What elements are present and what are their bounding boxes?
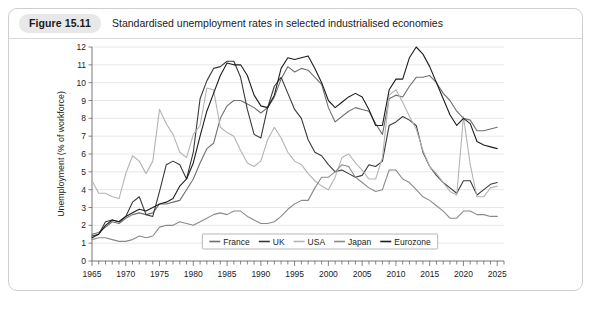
svg-text:0: 0 xyxy=(81,256,86,266)
unemployment-line-chart: 0123456789101112 19651970197519801985199… xyxy=(9,39,584,291)
svg-text:11: 11 xyxy=(77,60,86,70)
svg-text:7: 7 xyxy=(81,131,86,141)
y-axis-title: Unemployment (% of workforce) xyxy=(56,91,66,217)
figure-header: Figure 15.11 Standardised unemployment r… xyxy=(9,9,582,39)
svg-text:10: 10 xyxy=(77,78,87,88)
svg-text:5: 5 xyxy=(81,167,86,177)
chart-plot-area: 0123456789101112 19651970197519801985199… xyxy=(9,39,584,291)
svg-text:9: 9 xyxy=(81,96,86,106)
svg-text:2015: 2015 xyxy=(420,269,439,279)
legend-label-uk: UK xyxy=(273,237,285,247)
figure-card: Figure 15.11 Standardised unemployment r… xyxy=(8,8,583,291)
series-line-eurozone xyxy=(92,47,497,238)
svg-text:1980: 1980 xyxy=(184,269,203,279)
x-axis-tick-labels: 1965197019751980198519901995200020052010… xyxy=(83,269,507,279)
svg-text:12: 12 xyxy=(77,42,87,52)
svg-text:1995: 1995 xyxy=(285,269,304,279)
series-line-france xyxy=(92,67,497,235)
svg-text:2010: 2010 xyxy=(386,269,405,279)
svg-text:4: 4 xyxy=(81,185,86,195)
series-line-uk xyxy=(92,61,497,236)
figure-number-badge: Figure 15.11 xyxy=(19,14,101,33)
svg-text:6: 6 xyxy=(81,149,86,159)
legend-label-japan: Japan xyxy=(348,237,371,247)
svg-text:2025: 2025 xyxy=(488,269,507,279)
svg-text:1: 1 xyxy=(81,238,86,248)
legend-label-eurozone: Eurozone xyxy=(394,237,431,247)
x-axis-ticks xyxy=(92,261,504,266)
figure-title: Standardised unemployment rates in selec… xyxy=(112,17,443,29)
svg-text:2000: 2000 xyxy=(319,269,338,279)
svg-text:2: 2 xyxy=(81,220,86,230)
svg-text:2020: 2020 xyxy=(454,269,473,279)
legend-label-usa: USA xyxy=(308,237,326,247)
y-axis-ticks xyxy=(89,47,93,261)
svg-text:1965: 1965 xyxy=(83,269,102,279)
svg-text:8: 8 xyxy=(81,113,86,123)
data-series-layer xyxy=(92,47,497,241)
svg-text:1975: 1975 xyxy=(150,269,169,279)
legend-label-france: France xyxy=(223,237,250,247)
svg-text:1970: 1970 xyxy=(116,269,135,279)
svg-text:1985: 1985 xyxy=(218,269,237,279)
svg-text:3: 3 xyxy=(81,203,86,213)
series-line-usa xyxy=(92,88,497,199)
svg-text:2005: 2005 xyxy=(353,269,372,279)
svg-text:1990: 1990 xyxy=(251,269,270,279)
y-axis-tick-labels: 0123456789101112 xyxy=(77,42,87,266)
chart-legend: FranceUKUSAJapanEurozone xyxy=(202,234,437,249)
